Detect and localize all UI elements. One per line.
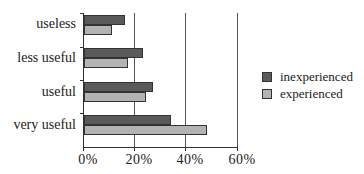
legend-item-experienced: experienced bbox=[262, 85, 353, 102]
y-tick bbox=[80, 13, 83, 14]
x-axis bbox=[83, 147, 238, 148]
y-tick bbox=[80, 113, 83, 114]
bar-less-useful-experienced bbox=[84, 58, 128, 68]
category-label-very-useful: very useful bbox=[13, 117, 76, 133]
x-tick-label-40: 40% bbox=[176, 152, 203, 168]
y-tick bbox=[80, 47, 83, 48]
category-label-useless: useless bbox=[36, 16, 76, 32]
bar-useless-inexperienced bbox=[84, 15, 125, 25]
x-tick bbox=[237, 147, 238, 151]
category-label-useful: useful bbox=[42, 84, 76, 100]
gridline-60 bbox=[237, 13, 238, 148]
legend-swatch-light bbox=[262, 89, 272, 99]
legend-label: inexperienced bbox=[280, 69, 353, 85]
legend-label: experienced bbox=[280, 86, 343, 102]
x-tick bbox=[83, 147, 84, 151]
x-tick-label-60: 60% bbox=[228, 152, 255, 168]
y-tick bbox=[80, 80, 83, 81]
bar-very-useful-inexperienced bbox=[84, 115, 171, 125]
bar-useless-experienced bbox=[84, 25, 112, 35]
x-tick-label-20: 20% bbox=[125, 152, 152, 168]
bar-less-useful-inexperienced bbox=[84, 48, 143, 58]
legend-swatch-dark bbox=[262, 72, 272, 82]
legend-item-inexperienced: inexperienced bbox=[262, 68, 353, 85]
legend: inexperienced experienced bbox=[262, 68, 353, 102]
x-tick-label-0: 0% bbox=[78, 152, 98, 168]
category-label-less-useful: less useful bbox=[17, 50, 76, 66]
bar-useful-experienced bbox=[84, 92, 146, 102]
x-tick bbox=[134, 147, 135, 151]
bar-useful-inexperienced bbox=[84, 82, 153, 92]
x-tick bbox=[185, 147, 186, 151]
bar-very-useful-experienced bbox=[84, 125, 207, 135]
